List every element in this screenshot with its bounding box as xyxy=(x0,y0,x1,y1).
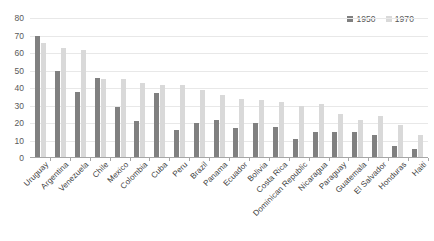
bar-group xyxy=(90,18,110,158)
bar-1950[interactable] xyxy=(134,121,139,158)
bar-1970[interactable] xyxy=(101,79,106,158)
bar-1950[interactable] xyxy=(273,127,278,159)
bar-group xyxy=(71,18,91,158)
bar-1970[interactable] xyxy=(418,135,423,158)
x-axis-label: Peru xyxy=(171,160,190,179)
bar-1970[interactable] xyxy=(358,120,363,159)
bar-group xyxy=(150,18,170,158)
bar-group xyxy=(387,18,407,158)
y-tick-label: 50 xyxy=(15,66,24,76)
bar-group xyxy=(31,18,51,158)
bar-chart: 1950 1970 01020304050607080 UruguayArgen… xyxy=(0,0,434,241)
bar-1950[interactable] xyxy=(115,107,120,158)
bar-series-container xyxy=(30,18,428,158)
bar-1970[interactable] xyxy=(81,50,86,159)
bar-group xyxy=(249,18,269,158)
bar-1970[interactable] xyxy=(180,85,185,159)
bar-group xyxy=(51,18,71,158)
plot-area xyxy=(30,18,428,158)
bar-group xyxy=(348,18,368,158)
y-tick-label: 60 xyxy=(15,48,24,58)
bar-1970[interactable] xyxy=(200,90,205,158)
tick-mark xyxy=(428,158,429,161)
bar-1950[interactable] xyxy=(253,123,258,158)
bar-group xyxy=(209,18,229,158)
bar-group xyxy=(130,18,150,158)
bar-1950[interactable] xyxy=(174,130,179,158)
bar-group xyxy=(170,18,190,158)
bar-1970[interactable] xyxy=(121,79,126,158)
bar-group xyxy=(308,18,328,158)
bar-1950[interactable] xyxy=(313,132,318,158)
bar-group xyxy=(407,18,427,158)
bar-group xyxy=(288,18,308,158)
y-axis: 01020304050607080 xyxy=(0,18,28,158)
bar-1970[interactable] xyxy=(279,102,284,158)
bar-1950[interactable] xyxy=(352,132,357,158)
bar-1970[interactable] xyxy=(160,85,165,159)
y-tick-label: 80 xyxy=(15,13,24,23)
bar-1970[interactable] xyxy=(338,114,343,158)
bar-1970[interactable] xyxy=(140,83,145,158)
y-tick-label: 40 xyxy=(15,83,24,93)
bar-group xyxy=(189,18,209,158)
bar-1970[interactable] xyxy=(259,100,264,158)
bar-1970[interactable] xyxy=(319,104,324,158)
bar-1950[interactable] xyxy=(372,135,377,158)
bar-1950[interactable] xyxy=(55,71,60,159)
bar-group xyxy=(328,18,348,158)
y-tick-label: 30 xyxy=(15,101,24,111)
bar-1970[interactable] xyxy=(378,116,383,158)
x-axis-label: Haiti xyxy=(410,160,428,178)
y-tick-label: 20 xyxy=(15,118,24,128)
bar-group xyxy=(269,18,289,158)
bar-1970[interactable] xyxy=(41,43,46,159)
x-axis-label: Cuba xyxy=(150,160,170,180)
y-tick-label: 0 xyxy=(19,153,24,163)
bar-1950[interactable] xyxy=(95,78,100,159)
y-tick-label: 70 xyxy=(15,31,24,41)
bar-group xyxy=(368,18,388,158)
bar-1950[interactable] xyxy=(233,128,238,158)
x-axis-labels: UruguayArgentinaVenezuelaChileMexicoColo… xyxy=(30,160,428,240)
bar-1950[interactable] xyxy=(75,92,80,159)
bar-1950[interactable] xyxy=(214,120,219,159)
bar-1970[interactable] xyxy=(299,106,304,159)
bar-1950[interactable] xyxy=(154,93,159,158)
bar-1970[interactable] xyxy=(239,99,244,159)
y-tick-label: 10 xyxy=(15,136,24,146)
bar-1970[interactable] xyxy=(398,125,403,158)
bar-1950[interactable] xyxy=(332,132,337,158)
bar-group xyxy=(110,18,130,158)
bar-1950[interactable] xyxy=(35,36,40,159)
bar-1950[interactable] xyxy=(194,123,199,158)
bar-1970[interactable] xyxy=(220,95,225,158)
bar-1970[interactable] xyxy=(61,48,66,158)
bar-group xyxy=(229,18,249,158)
bar-1950[interactable] xyxy=(293,139,298,158)
